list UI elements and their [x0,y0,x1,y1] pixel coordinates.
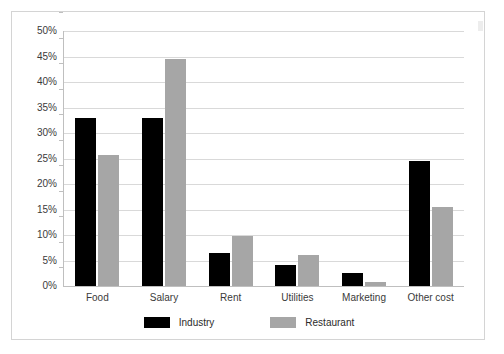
y-axis-tick-label: 35% [13,103,57,113]
gridline-10pct [64,235,464,236]
bar-industry-food [75,118,96,286]
y-tick-mark [59,12,63,13]
y-axis-tick-label: 40% [13,77,57,87]
y-axis-tick-label: 5% [13,256,57,266]
bar-restaurant-marketing [365,282,386,286]
legend-label-industry: Industry [179,317,215,328]
x-axis-label-utilities: Utilities [281,292,313,304]
x-axis-label-marketing: Marketing [342,292,386,304]
y-axis-tick-label: 30% [13,128,57,138]
y-axis-tick-label: 0% [13,281,57,291]
gridline-5pct [64,261,464,262]
y-tick-mark [59,191,63,192]
legend-item-industry[interactable]: Industry [144,317,215,328]
gridline-40pct [64,82,464,83]
legend-label-restaurant: Restaurant [305,317,354,328]
chart-container: 50%45%40%35%30%25%20%15%10%5%0% FoodSala… [11,11,485,340]
bar-industry-salary [142,118,163,286]
y-tick-mark [59,267,63,268]
y-axis-tick-label: 10% [13,230,57,240]
y-tick-mark [59,216,63,217]
x-axis-labels: FoodSalaryRentUtilitiesMarketingOther co… [64,292,464,308]
bar-restaurant-rent [232,236,253,286]
gridline-35pct [64,108,464,109]
bar-industry-other-cost [409,161,430,286]
y-tick-mark [59,89,63,90]
legend-item-restaurant[interactable]: Restaurant [270,317,354,328]
gridline-0pct [64,286,464,287]
chart-legend: IndustryRestaurant [12,317,486,328]
y-tick-mark [59,242,63,243]
y-tick-mark [59,63,63,64]
y-tick-mark [59,140,63,141]
gridline-20pct [64,184,464,185]
x-axis-label-salary: Salary [150,292,178,304]
gridline-50pct [64,31,464,32]
scan-artifact [478,21,483,31]
bar-restaurant-food [98,155,119,286]
bar-restaurant-salary [165,59,186,286]
x-axis-label-food: Food [86,292,109,304]
gridline-25pct [64,159,464,160]
legend-swatch-restaurant [270,317,296,328]
y-axis-labels: 50%45%40%35%30%25%20%15%10%5%0% [12,31,57,287]
bar-industry-rent [209,253,230,286]
y-tick-mark [59,114,63,115]
y-axis-tick-label: 45% [13,52,57,62]
y-axis-tick-label: 25% [13,154,57,164]
x-axis-label-rent: Rent [220,292,241,304]
gridline-15pct [64,210,464,211]
legend-swatch-industry [144,317,170,328]
plot-area [64,31,464,286]
y-tick-mark [59,165,63,166]
bar-industry-utilities [275,265,296,286]
gridline-30pct [64,133,464,134]
y-axis-tick-label: 20% [13,179,57,189]
y-tick-mark [59,38,63,39]
bar-restaurant-utilities [298,255,319,286]
gridline-45pct [64,57,464,58]
x-axis-label-other-cost: Other cost [408,292,454,304]
y-axis-tick-label: 50% [13,26,57,36]
bar-restaurant-other-cost [432,207,453,286]
y-axis-tick-label: 15% [13,205,57,215]
bar-industry-marketing [342,273,363,286]
